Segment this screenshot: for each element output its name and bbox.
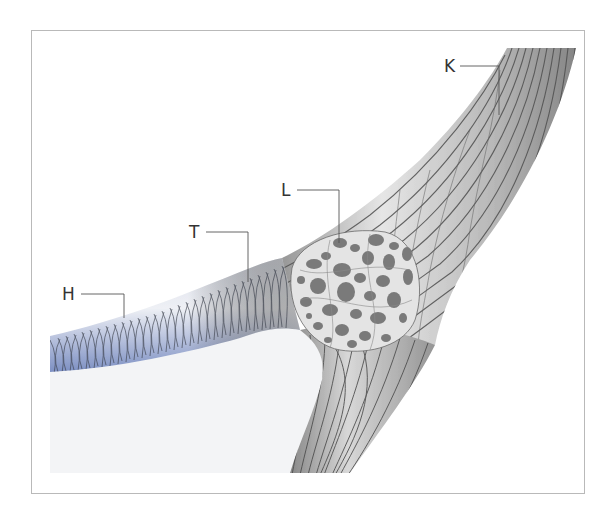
label-h: H	[62, 286, 75, 303]
label-t: T	[189, 224, 199, 241]
illustration	[0, 0, 611, 515]
label-k: K	[444, 58, 455, 75]
label-l: L	[281, 182, 290, 199]
granule-cluster	[291, 231, 420, 352]
